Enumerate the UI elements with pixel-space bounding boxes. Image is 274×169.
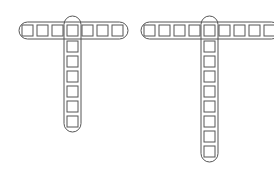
square	[82, 25, 93, 36]
square	[264, 25, 274, 36]
square	[144, 25, 155, 36]
square	[52, 25, 63, 36]
square	[97, 25, 108, 36]
square	[204, 146, 215, 157]
square	[204, 116, 215, 127]
square	[204, 86, 215, 97]
square	[159, 25, 170, 36]
square	[204, 131, 215, 142]
square	[67, 71, 78, 82]
square	[204, 71, 215, 82]
square	[204, 25, 215, 36]
square	[22, 25, 33, 36]
right-t-figure	[141, 16, 274, 162]
square	[67, 86, 78, 97]
square	[234, 25, 245, 36]
square	[204, 56, 215, 67]
square	[112, 25, 123, 36]
square	[67, 41, 78, 52]
square	[67, 101, 78, 112]
left-t-figure	[19, 16, 128, 132]
square	[249, 25, 260, 36]
square	[174, 25, 185, 36]
square	[189, 25, 200, 36]
diagram-canvas	[0, 0, 274, 169]
square	[204, 41, 215, 52]
square	[204, 101, 215, 112]
square	[67, 25, 78, 36]
square	[67, 56, 78, 67]
square	[37, 25, 48, 36]
square	[67, 116, 78, 127]
square	[219, 25, 230, 36]
